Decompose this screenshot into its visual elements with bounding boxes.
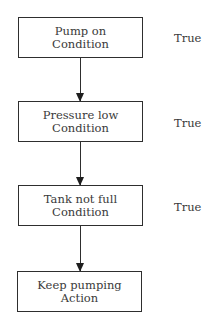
- node-pressure-low: Pressure low Condition: [18, 101, 143, 142]
- result-label-pump-on: True: [174, 32, 201, 45]
- node-tank-not-full: Tank not full Condition: [18, 185, 143, 226]
- node-pump-on: Pump on Condition: [18, 17, 143, 58]
- node-kind: Condition: [52, 206, 109, 219]
- node-kind: Condition: [52, 38, 109, 51]
- node-title: Keep pumping: [37, 279, 121, 292]
- node-title: Tank not full: [44, 193, 117, 206]
- node-title: Pressure low: [43, 109, 119, 122]
- arrow-2-to-3: [80, 142, 81, 185]
- arrow-1-to-2: [80, 58, 81, 101]
- arrow-3-to-4: [80, 226, 81, 271]
- result-label-pressure-low: True: [174, 117, 201, 130]
- result-label-tank-not-full: True: [174, 201, 201, 214]
- node-kind: Action: [61, 292, 98, 305]
- node-title: Pump on: [55, 25, 106, 38]
- node-kind: Condition: [52, 122, 109, 135]
- node-keep-pumping: Keep pumping Action: [17, 271, 142, 312]
